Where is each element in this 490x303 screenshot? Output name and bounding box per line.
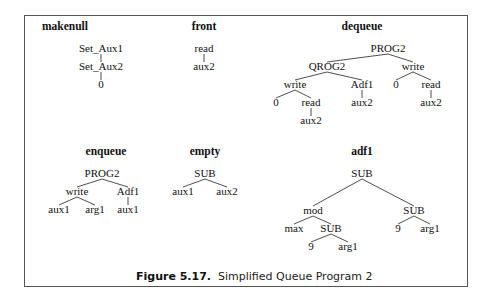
tree-node: aux2 <box>300 114 321 126</box>
tree-node: 9 <box>308 240 314 252</box>
tree-node: mod <box>303 204 323 216</box>
tree-edge <box>311 234 331 242</box>
tree-node: aux2 <box>216 185 237 197</box>
tree-node: write <box>402 60 425 72</box>
tree-front: frontreadaux2 <box>192 20 217 72</box>
tree-title: dequeue <box>342 20 383 33</box>
tree-node: Set_Aux2 <box>79 60 123 72</box>
tree-node: read <box>422 78 441 90</box>
tree-node: SUB <box>403 204 424 216</box>
tree-node: PROG2 <box>371 42 406 54</box>
tree-edge <box>276 90 295 98</box>
tree-node: max <box>285 222 304 234</box>
tree-node: aux1 <box>172 185 193 197</box>
tree-node: aux1 <box>117 203 138 215</box>
tree-title: makenull <box>42 20 88 32</box>
tree-enqueue: enqueuePROG2writeAdf1aux1arg1aux1 <box>48 145 139 215</box>
tree-title: empty <box>190 145 221 158</box>
caption-label: Figure 5.17. <box>136 270 211 283</box>
tree-node: Adf1 <box>117 185 140 197</box>
tree-dequeue: dequeuePROG2QROG2writewriteAdf10read0rea… <box>273 20 441 126</box>
tree-node: SUB <box>351 167 372 179</box>
tree-node: read <box>195 42 214 54</box>
tree-node: arg1 <box>85 203 104 215</box>
tree-makenull: makenullSet_Aux1Set_Aux20 <box>42 20 123 90</box>
tree-node: arg1 <box>420 222 439 234</box>
tree-adf1: adf1SUBmodSUBmaxSUB9arg19arg1 <box>285 145 440 252</box>
tree-node: 9 <box>395 222 401 234</box>
tree-node: SUB <box>194 167 215 179</box>
tree-title: adf1 <box>351 145 373 157</box>
tree-node: 0 <box>393 78 399 90</box>
tree-node: Set_Aux1 <box>79 42 123 54</box>
tree-title: front <box>192 20 217 32</box>
tree-node: PROG2 <box>85 167 120 179</box>
tree-node: 0 <box>98 78 104 90</box>
tree-node: arg1 <box>338 240 357 252</box>
tree-node: read <box>302 96 321 108</box>
tree-node: aux2 <box>420 96 441 108</box>
tree-node: aux1 <box>48 203 69 215</box>
tree-empty: emptySUBaux1aux2 <box>172 145 237 197</box>
tree-node: aux2 <box>193 60 214 72</box>
tree-node: SUB <box>320 222 341 234</box>
tree-node: 0 <box>273 96 279 108</box>
tree-title: enqueue <box>86 145 127 158</box>
figure-canvas: makenullSet_Aux1Set_Aux20frontreadaux2de… <box>0 0 490 303</box>
tree-node: aux2 <box>351 96 372 108</box>
tree-node: Adf1 <box>351 78 374 90</box>
tree-diagrams: makenullSet_Aux1Set_Aux20frontreadaux2de… <box>42 20 442 252</box>
caption-text: Simplified Queue Program 2 <box>218 270 373 283</box>
tree-node: write <box>284 78 307 90</box>
tree-node: write <box>66 185 89 197</box>
tree-edge <box>313 179 362 206</box>
figure-caption: Figure 5.17. Simplified Queue Program 2 <box>136 270 373 283</box>
tree-node: QROG2 <box>309 60 346 72</box>
tree-edge <box>362 179 414 206</box>
